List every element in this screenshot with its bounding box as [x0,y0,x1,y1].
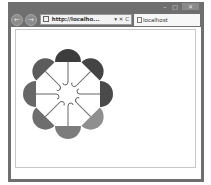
tab-localhost[interactable]: localhost [134,14,200,26]
maximize-button[interactable]: □ [170,3,180,10]
umbrella-icon [23,81,59,107]
minimize-button[interactable]: – [160,3,170,10]
umbrella-icon [55,103,81,139]
address-tools[interactable]: ▾ ✕ C [114,15,129,24]
browser-window: – □ ✕ ← → http://localho... ▾ ✕ C localh… [8,2,204,182]
umbrella-icon [77,81,113,107]
address-url: http://localho... [52,16,100,22]
back-button[interactable]: ← [11,14,23,26]
page-icon [137,17,142,23]
title-bar[interactable]: – □ ✕ [8,2,204,12]
tab-title: localhost [143,17,168,23]
umbrella-icon [55,49,81,85]
page-content [11,27,201,179]
forward-button[interactable]: → [25,14,37,26]
loading-spinner [11,27,201,179]
close-button[interactable]: ✕ [182,3,199,10]
page-icon [43,16,49,22]
address-bar[interactable]: http://localho... ▾ ✕ C [40,14,132,25]
